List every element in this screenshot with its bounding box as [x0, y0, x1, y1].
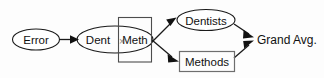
node-interaction-dent-x-meth[interactable]: Dent × Meth: [77, 18, 153, 63]
edge-interaction-to-methods: [152, 40, 179, 63]
edge-methods-to-grand-avg: [234, 41, 254, 58]
node-grand-avg: Grand Avg.: [257, 33, 317, 47]
diagram-canvas: Error Dent × Meth Dentists Methods Grand…: [0, 0, 324, 78]
edge-error-to-interaction: [60, 35, 79, 44]
grand-avg-label: Grand Avg.: [257, 33, 317, 47]
edge-interaction-to-dentists: [152, 18, 177, 43]
node-dentists[interactable]: Dentists: [177, 10, 235, 31]
error-label: Error: [23, 34, 49, 46]
dentists-label: Dentists: [185, 15, 227, 27]
interaction-meth-label: Meth: [122, 34, 148, 46]
diagram-svg: Error Dent × Meth Dentists Methods Grand…: [0, 0, 324, 78]
node-error[interactable]: Error: [13, 29, 60, 50]
node-methods[interactable]: Methods: [180, 52, 235, 72]
methods-label: Methods: [185, 56, 229, 68]
edge-dentists-to-grand-avg: [234, 24, 254, 38]
interaction-dent-label: Dent: [86, 34, 111, 46]
